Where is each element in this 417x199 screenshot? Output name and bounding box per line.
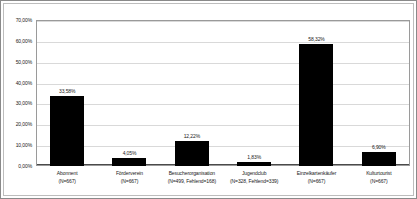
x-tick-label-group: Kulturtourist(N=667) <box>348 169 410 185</box>
category-sample-size: (N=499, Fehlend=168) <box>161 177 223 185</box>
bar-group[interactable]: 6,90% <box>348 20 410 166</box>
bar-value-label: 4,05% <box>123 150 137 156</box>
y-tick-label: 30,00% <box>16 100 32 106</box>
y-axis: 0,00%10,00%20,00%30,00%40,00%50,00%60,00… <box>4 20 34 166</box>
x-tick-label-group: Abonnent(N=667) <box>36 169 98 185</box>
bar-group[interactable]: 12,22% <box>161 20 223 166</box>
x-axis: Abonnent(N=667)Förderverein(N=667)Besuch… <box>36 169 410 197</box>
y-tick-label: 0,00% <box>18 163 32 169</box>
x-tick-label-group: Einzelkartenkäufer(N=667) <box>285 169 347 185</box>
x-tick-label-group: Jugendclub(N=328, Fehlend=339) <box>223 169 285 185</box>
y-tick-label: 60,00% <box>16 38 32 44</box>
category-name: Jugendclub <box>223 169 285 177</box>
bar-group[interactable]: 4,05% <box>98 20 160 166</box>
y-tick-label: 70,00% <box>16 17 32 23</box>
category-name: Einzelkartenkäufer <box>285 169 347 177</box>
category-name: Abonnent <box>36 169 98 177</box>
bar-value-label: 12,22% <box>184 133 200 139</box>
bar[interactable] <box>50 96 84 166</box>
y-tick-label: 50,00% <box>16 59 32 65</box>
x-tick-label-group: Besucherorganisation(N=499, Fehlend=168) <box>161 169 223 185</box>
bar[interactable] <box>175 141 209 166</box>
bar-value-label: 58,32% <box>308 36 324 42</box>
category-name: Besucherorganisation <box>161 169 223 177</box>
category-sample-size: (N=667) <box>98 177 160 185</box>
bar[interactable] <box>237 162 271 166</box>
category-sample-size: (N=328, Fehlend=339) <box>223 177 285 185</box>
category-sample-size: (N=667) <box>348 177 410 185</box>
bar-series: 33,58%4,05%12,22%1,83%58,32%6,90% <box>36 20 410 166</box>
x-tick-label-group: Förderverein(N=667) <box>98 169 160 185</box>
bar[interactable] <box>112 158 146 166</box>
chart-inner-frame: 0,00%10,00%20,00%30,00%40,00%50,00%60,00… <box>3 3 414 196</box>
y-tick-label: 10,00% <box>16 142 32 148</box>
category-sample-size: (N=667) <box>285 177 347 185</box>
chart-outer-frame: 0,00%10,00%20,00%30,00%40,00%50,00%60,00… <box>0 0 417 199</box>
bar-group[interactable]: 1,83% <box>223 20 285 166</box>
bar-value-label: 6,90% <box>372 144 386 150</box>
category-name: Kulturtourist <box>348 169 410 177</box>
bar-group[interactable]: 58,32% <box>285 20 347 166</box>
bar[interactable] <box>362 152 396 166</box>
bar-group[interactable]: 33,58% <box>36 20 98 166</box>
bar-value-label: 33,58% <box>59 88 75 94</box>
y-tick-label: 40,00% <box>16 80 32 86</box>
category-name: Förderverein <box>98 169 160 177</box>
bar-value-label: 1,83% <box>247 154 261 160</box>
category-sample-size: (N=667) <box>36 177 98 185</box>
y-tick-label: 20,00% <box>16 121 32 127</box>
bar[interactable] <box>299 44 333 166</box>
